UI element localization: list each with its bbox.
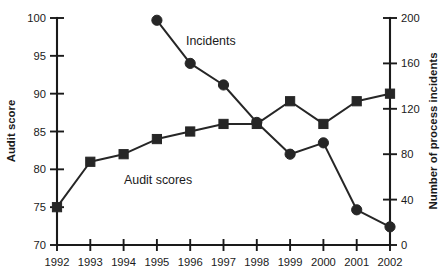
right-tick-label: 40 [401, 194, 413, 206]
right-tick-label: 0 [401, 239, 407, 251]
data-point-square [86, 157, 95, 166]
data-point-square [119, 150, 128, 159]
data-point-square [385, 89, 394, 98]
data-point-square [319, 119, 328, 128]
right-tick-label: 120 [401, 103, 420, 115]
data-point-circle [285, 149, 295, 159]
left-tick-label: 85 [34, 126, 46, 138]
left-tick-label: 100 [27, 12, 46, 24]
dual-axis-line-chart: 707580859095100 04080120160200 199219931… [0, 0, 448, 279]
right-axis-ticks: 04080120160200 [383, 12, 420, 251]
x-tick-label: 1999 [278, 256, 303, 268]
x-tick-label: 1996 [178, 256, 203, 268]
left-tick-label: 80 [34, 163, 46, 175]
left-tick-label: 75 [34, 201, 46, 213]
series-annotation-audit-scores: Audit scores [124, 173, 192, 187]
data-point-square [152, 134, 161, 143]
data-point-square [352, 97, 361, 106]
x-tick-label: 1995 [144, 256, 169, 268]
data-point-circle [385, 222, 395, 232]
x-tick-label: 2002 [378, 256, 403, 268]
x-tick-label: 1992 [45, 256, 70, 268]
right-tick-label: 80 [401, 148, 413, 160]
left-axis-ticks: 707580859095100 [27, 12, 64, 251]
left-tick-label: 95 [34, 50, 46, 62]
data-point-circle [218, 80, 228, 90]
x-axis-ticks: 1992199319941995199619971998199920002001… [45, 239, 403, 268]
data-point-circle [352, 205, 362, 215]
data-point-square [52, 203, 61, 212]
series-line-1 [157, 20, 390, 227]
x-tick-label: 1994 [111, 256, 136, 268]
left-tick-label: 90 [34, 88, 46, 100]
data-point-circle [185, 58, 195, 68]
x-tick-label: 1993 [78, 256, 103, 268]
left-tick-label: 70 [34, 239, 46, 251]
series-line-0 [57, 94, 390, 208]
data-point-circle [252, 117, 262, 127]
data-point-square [286, 97, 295, 106]
data-point-circle [318, 138, 328, 148]
left-axis-title: Audit score [5, 100, 17, 163]
chart-container: 707580859095100 04080120160200 199219931… [0, 0, 448, 279]
data-point-circle [152, 15, 162, 25]
x-tick-label: 1997 [211, 256, 236, 268]
data-point-square [186, 127, 195, 136]
right-tick-label: 200 [401, 12, 420, 24]
x-tick-label: 2000 [311, 256, 336, 268]
right-tick-label: 160 [401, 57, 420, 69]
x-tick-label: 2001 [344, 256, 369, 268]
data-point-square [219, 119, 228, 128]
axes-group [57, 18, 390, 245]
right-axis-title: Number of process incidents [427, 53, 439, 210]
x-tick-label: 1998 [244, 256, 269, 268]
series-annotation-incidents: Incidents [186, 34, 236, 48]
